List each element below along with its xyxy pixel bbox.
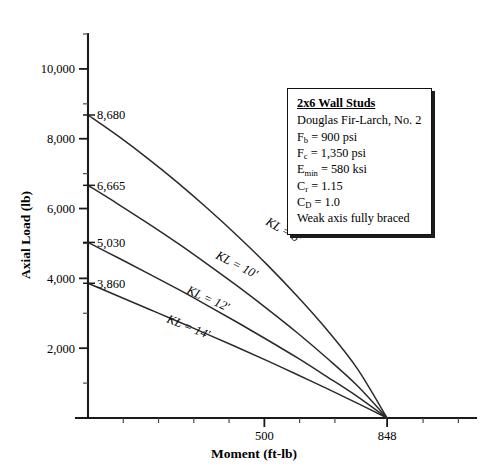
property-value: = 900 psi [308,130,357,144]
note-box-property-4: Cr = 1.15 [297,178,423,194]
x-tick-label: 848 [378,429,397,443]
note-box-property-2: Fc = 1,350 psi [297,145,423,161]
y-tick-label: 4,000 [47,272,75,286]
property-symbol: F [297,146,304,160]
property-subscript: min [305,168,318,178]
property-symbol: C [297,195,305,209]
note-box-material: Douglas Fir-Larch, No. 2 [297,112,423,128]
intercept-label-4: 3,860 [97,277,125,291]
curve-4 [88,283,387,418]
interaction-diagram-chart: 10,0008,0006,0004,0002,000500848 8,6806,… [0,0,499,470]
property-subscript: c [304,151,308,161]
note-box-property-3: Emin = 580 ksi [297,161,423,177]
series-label-3: KL = 12' [184,283,232,315]
y-tick-label: 2,000 [47,342,75,356]
y-tick-label: 6,000 [47,202,75,216]
y-tick-label: 10,000 [41,62,75,76]
property-symbol: C [297,179,305,193]
property-value: = 1,350 psi [308,146,366,160]
chart-plot-area: 10,0008,0006,0004,0002,000500848 8,6806,… [0,0,499,470]
property-value: = 580 ksi [318,162,367,176]
y-tick-label: 8,000 [47,132,75,146]
legend-note-box: 2x6 Wall Studs Douglas Fir-Larch, No. 2 … [287,88,432,235]
intercept-label-1: 8,680 [97,108,125,122]
intercept-label-2: 6,665 [97,179,125,193]
note-box-property-5: CD = 1.0 [297,194,423,210]
note-box-bracing: Weak axis fully braced [297,210,423,226]
property-symbol: E [297,162,305,176]
property-value: = 1.15 [308,179,343,193]
note-box-properties: Fb = 900 psiFc = 1,350 psiEmin = 580 ksi… [297,129,423,211]
y-axis-title: Axial Load (lb) [18,191,33,279]
property-subscript: b [304,135,308,145]
note-box-title: 2x6 Wall Studs [297,95,423,111]
property-subscript: D [305,200,311,210]
x-axis-title: Moment (ft-lb) [211,446,297,461]
property-value: = 1.0 [311,195,339,209]
note-box-property-1: Fb = 900 psi [297,129,423,145]
property-subscript: r [305,184,308,194]
intercept-label-3: 5,030 [97,236,125,250]
series-label-4: KL = 14' [164,311,212,341]
x-tick-label: 500 [255,429,274,443]
property-symbol: F [297,130,304,144]
series-label-2: KL = 10' [213,248,261,281]
